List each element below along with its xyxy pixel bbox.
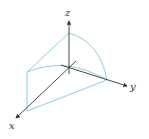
middle-arc xyxy=(27,66,107,80)
solid-edges xyxy=(27,33,107,111)
y-axis xyxy=(61,65,127,86)
y-axis-label: y xyxy=(130,82,136,92)
top-arc xyxy=(69,33,107,80)
x-axis-label: x xyxy=(9,121,15,131)
bottom-edge xyxy=(27,80,107,111)
solid-diagram xyxy=(0,0,149,139)
x-axis xyxy=(16,61,76,118)
diagram-canvas: z y x xyxy=(0,0,149,139)
z-axis-label: z xyxy=(65,8,70,18)
